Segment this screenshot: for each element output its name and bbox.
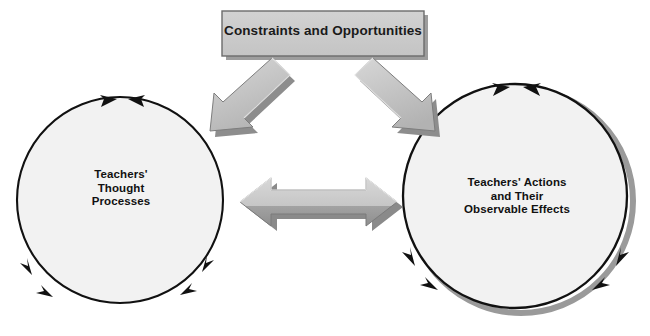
diagram-canvas: Constraints and Opportunities Teachers' … [0, 0, 650, 336]
thought-circle [17, 97, 223, 303]
arrow-constraints-to-actions [355, 58, 440, 137]
arrow-thought-actions-bidirectional [240, 178, 403, 231]
constraints-box [222, 11, 428, 60]
arrow-constraints-to-thought [210, 58, 295, 137]
diagram-graphics [0, 0, 650, 336]
